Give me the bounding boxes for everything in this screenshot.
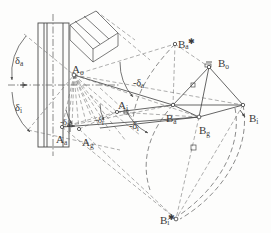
point-label-B-o: Bo (218, 58, 229, 70)
point-label-A-a: Aa (56, 134, 67, 146)
point-label-B-a: Ba (166, 113, 177, 125)
point-base: A (56, 133, 64, 145)
inclined-plane-parallelogram (70, 11, 118, 62)
point-label-A-i: Ai (118, 100, 128, 112)
angle-label-neg-delta-a-lower: -δa (60, 118, 70, 128)
point-subscript: i (126, 104, 128, 113)
point-base: A (118, 99, 126, 111)
angle-subscript: i (20, 106, 22, 115)
angle-subscript: a (141, 81, 144, 90)
point-label-B-g: Bg (199, 125, 210, 137)
point-base: A (82, 136, 90, 148)
point-label-A-g: Ag (82, 137, 94, 149)
point-label-B-i-star: Bi✱ (160, 214, 175, 227)
point-base: A (72, 63, 80, 75)
angle-label-neg-delta-a-main: -δa (133, 78, 144, 89)
angle-label-neg-delta-i-lower: -δi (95, 116, 103, 126)
point-subscript: g (90, 141, 94, 150)
point-subscript: a (173, 117, 176, 126)
angle-subscript: a (67, 120, 70, 129)
technical-diagram-figure: δa δi -δa -δa -δi -δi Ao Aa Ag Ai Bo Ba … (0, 0, 271, 233)
point-label-A-o: Ao (72, 64, 84, 76)
angle-subscript: a (20, 59, 23, 68)
construction-lines-solid (62, 67, 243, 128)
point-label-B-a-star: Ba✱ (178, 38, 195, 51)
angle-subscript: i (102, 118, 104, 127)
angle-label-neg-delta-i-main: -δi (129, 121, 139, 132)
point-subscript: i (256, 117, 258, 126)
point-subscript: o (225, 62, 229, 71)
angle-label-delta-i-positive: δi (15, 103, 22, 114)
diagram-canvas (0, 0, 271, 233)
angle-label-delta-a-positive: δa (15, 56, 23, 67)
point-subscript: o (80, 68, 84, 77)
point-subscript: a (64, 138, 67, 147)
star-marker: ✱ (168, 213, 175, 222)
point-subscript: g (206, 129, 210, 138)
point-label-B-i: Bi (249, 113, 258, 125)
angle-subscript: i (137, 124, 139, 133)
star-marker: ✱ (188, 37, 195, 46)
